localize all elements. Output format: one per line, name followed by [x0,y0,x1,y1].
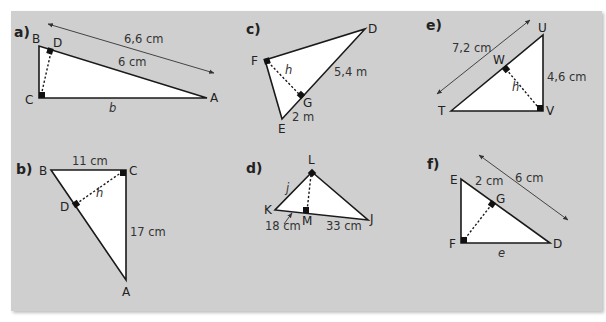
vertex-G-c: G [303,96,312,110]
vertex-F-f: F [449,237,456,251]
altitude-label-b: h [96,186,103,200]
vertex-B-a: B [32,32,40,46]
part-label-b: b) [16,161,32,177]
vertex-C-a: C [25,93,33,107]
problem-c: c) F D G E 5,4 m 2 m h [246,21,377,136]
vertex-T-e: T [437,104,446,118]
vertex-B-b: B [39,164,47,178]
altitude-label-c: h [285,63,292,77]
vertex-J-d: J [369,212,374,226]
vertex-A-b: A [122,285,131,299]
problem-e: e) 7,2 cm U W T V 4,6 cm h [426,17,586,118]
measure-MJ-d: 33 cm [326,219,362,233]
vertex-C-b: C [129,164,137,178]
vertex-M-d: M [302,214,312,228]
vertex-G-f: G [496,192,505,206]
measure-e-f: e [498,246,505,260]
triangle-a [39,46,207,98]
triangle-f [461,179,550,243]
triangle-b [51,170,126,280]
triangle-d [275,172,368,220]
vertex-F-c: F [251,54,258,68]
vertex-L-d: L [308,153,315,167]
problem-f: f) 6 cm E G F D 2 cm e [427,155,568,260]
problem-a: a) 6,6 cm B D C A 6 cm b [14,24,219,115]
part-label-d: d) [246,160,262,176]
vertex-E-c: E [278,122,286,136]
part-label-c: c) [246,21,261,37]
measure-EG-c: 2 m [292,110,314,124]
vertex-D-a: D [53,36,62,50]
part-label-e: e) [426,17,442,33]
part-label-a: a) [14,24,30,40]
measure-DA-a: 6 cm [118,55,147,69]
problem-d: d) L K M J j 18 cm 33 cm [246,153,374,233]
right-angle-marker-M-d [303,207,309,213]
measure-hypotenuse-f: 6 cm [515,171,544,185]
measure-KM-d: 18 cm [265,219,301,233]
vertex-D-c: D [368,22,377,36]
vertex-U-e: U [538,21,547,35]
measure-EG-f: 2 cm [475,174,504,188]
problem-b: b) B C D A 11 cm 17 cm h [16,154,166,299]
vertex-A-a: A [210,91,219,105]
measure-UV-e: 4,6 cm [547,70,586,84]
measure-BC-b: 11 cm [72,154,108,168]
measure-j-d: j [284,181,290,195]
right-angle-marker-F-f [461,237,467,243]
right-angle-marker-C-b [120,170,126,176]
vertex-E-f: E [450,173,458,187]
right-angle-marker-C [39,92,45,98]
right-angle-marker-V-e [537,105,543,111]
part-label-f: f) [427,156,440,172]
vertex-D-f: D [553,237,562,251]
altitude-label-e: h [512,80,519,94]
vertex-W-e: W [493,53,505,67]
vertex-D-b: D [60,200,69,214]
measure-GD-c: 5,4 m [334,65,367,79]
vertex-K-d: K [264,203,273,217]
measure-CA-b: 17 cm [130,225,166,239]
vertex-V-e: V [546,104,555,118]
measure-hypotenuse-e: 7,2 cm [452,41,491,55]
measure-b-a: b [109,101,116,115]
measure-hypotenuse-a: 6,6 cm [124,32,163,46]
triangles-diagram: a) 6,6 cm B D C A 6 cm b b) B C D A 11 c… [0,0,606,322]
